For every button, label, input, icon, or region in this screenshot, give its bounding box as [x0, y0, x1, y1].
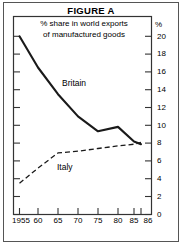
y-tick-label-18: 18 [157, 49, 166, 58]
x-tick-label-75: 75 [90, 216, 106, 225]
plot-frame [14, 17, 152, 215]
right-axis-ticks [145, 36, 152, 214]
y-axis-unit-label: % [155, 20, 162, 29]
y-tick-label-10: 10 [157, 121, 166, 130]
bottom-axis-ticks [20, 208, 142, 215]
series-label-italy: Italy [57, 162, 73, 172]
chart-plot-area: % share in world exports of manufactured… [0, 0, 182, 245]
y-tick-label-16: 16 [157, 67, 166, 76]
y-tick-label-2: 2 [157, 192, 161, 201]
series-line-italy [20, 143, 142, 184]
x-tick-label-70: 70 [70, 216, 86, 225]
y-tick-label-14: 14 [157, 85, 166, 94]
x-tick-label-80: 80 [110, 216, 126, 225]
y-tick-label-4: 4 [157, 174, 161, 183]
figure-container: FIGURE A [0, 0, 182, 245]
y-tick-label-8: 8 [157, 138, 161, 147]
series-line-britain [20, 36, 142, 144]
series-label-britain: Britain [62, 78, 86, 88]
x-tick-label-86: 86 [140, 216, 156, 225]
chart-subtitle: % share in world exports of manufactured… [26, 19, 142, 40]
y-tick-label-6: 6 [157, 156, 161, 165]
y-tick-label-20: 20 [157, 32, 166, 41]
chart-subtitle-line-2: of manufactured goods [26, 30, 142, 41]
y-tick-label-0: 0 [157, 210, 161, 219]
x-tick-label-60: 60 [30, 216, 46, 225]
left-axis-ticks [14, 36, 21, 214]
y-tick-label-12: 12 [157, 103, 166, 112]
chart-subtitle-line-1: % share in world exports [26, 19, 142, 30]
x-tick-label-65: 65 [50, 216, 66, 225]
